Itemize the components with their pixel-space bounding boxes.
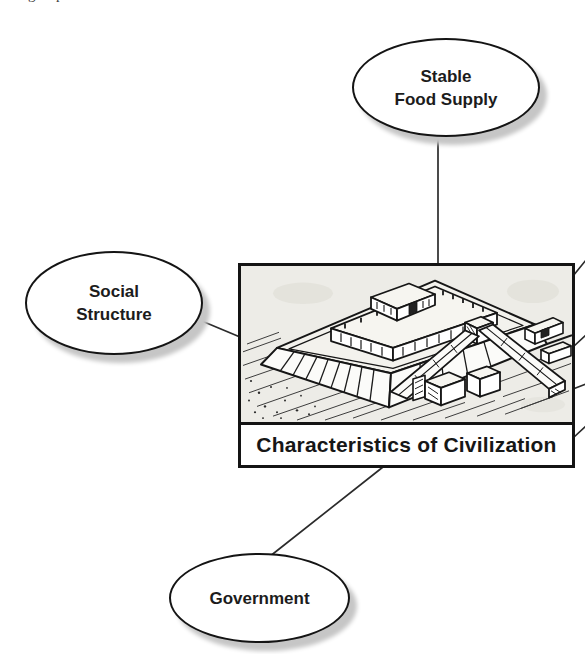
diagram-page: { "page": { "background_color": "#ffffff…: [0, 0, 585, 654]
node-label-line: Structure: [76, 303, 152, 326]
node-social-structure: Social Structure: [25, 251, 203, 355]
center-figure: Characteristics of Civilization: [238, 263, 575, 468]
node-government: Government: [169, 553, 350, 643]
node-stable-food-supply: Stable Food Supply: [352, 38, 540, 137]
node-label-line: Government: [209, 587, 309, 610]
node-label-line: Social: [89, 280, 139, 303]
connector-government: [269, 467, 383, 557]
illustration-area: [241, 266, 572, 422]
ziggurat-illustration: [241, 266, 572, 422]
connector-social-structure: [197, 319, 240, 337]
node-label-line: Stable: [420, 65, 471, 88]
figure-caption: Characteristics of Civilization: [241, 422, 572, 465]
node-label-line: Food Supply: [395, 88, 498, 111]
